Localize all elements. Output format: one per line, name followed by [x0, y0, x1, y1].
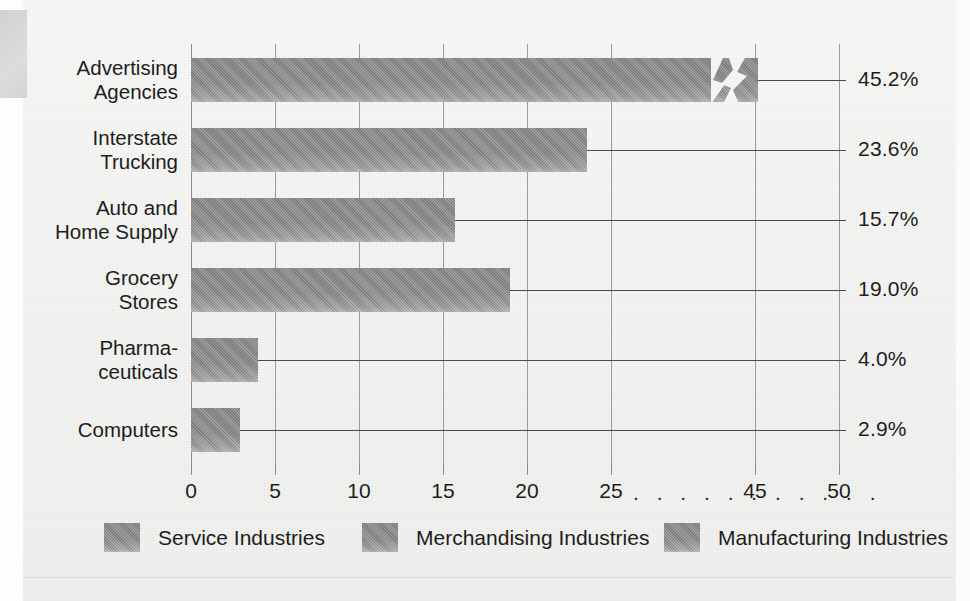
x-tick-label-0: 0 [161, 479, 221, 503]
legend-item-1[interactable]: Merchandising Industries [362, 523, 649, 552]
leader-line-4 [258, 360, 846, 361]
tick-mark-10 [359, 463, 360, 475]
category-label-line: Trucking [93, 150, 178, 174]
legend-label-1: Merchandising Industries [416, 526, 649, 550]
category-label-1: InterstateTrucking [93, 126, 178, 174]
bar-4 [191, 338, 258, 382]
bar-3 [191, 268, 510, 312]
axis-break-ellipsis: . . . . . . . . . . . [633, 481, 882, 505]
leader-line-2 [455, 220, 846, 221]
gridline-15 [443, 44, 444, 463]
bar-chart-plot-area: 05101520254550. . . . . . . . . . .45.2%… [0, 0, 970, 601]
category-label-line: Pharma- [98, 336, 178, 360]
x-tick-label-20: 20 [497, 479, 557, 503]
category-label-5: Computers [78, 418, 178, 442]
x-tick-label-25: 25 [581, 479, 641, 503]
x-tick-label-5: 5 [245, 479, 305, 503]
category-label-line: Stores [105, 290, 178, 314]
gridline-50 [839, 44, 840, 463]
category-label-line: Computers [78, 418, 178, 442]
category-label-line: Grocery [105, 266, 178, 290]
tick-mark-45 [755, 463, 756, 475]
category-label-4: Pharma-ceuticals [98, 336, 178, 384]
gridline-45 [755, 44, 756, 463]
gridline-25 [611, 44, 612, 463]
legend-label-0: Service Industries [158, 526, 325, 550]
category-label-3: GroceryStores [105, 266, 178, 314]
legend-swatch-icon [664, 523, 700, 552]
x-tick-label-10: 10 [329, 479, 389, 503]
tick-mark-50 [839, 463, 840, 475]
bar-5 [191, 408, 240, 452]
value-label-3: 19.0% [858, 277, 919, 301]
gridline-10 [359, 44, 360, 463]
leader-line-1 [587, 150, 846, 151]
gridline-5 [275, 44, 276, 463]
category-label-line: Home Supply [55, 220, 178, 244]
tick-mark-0 [191, 463, 192, 475]
axis-break-zigzag-icon [711, 58, 755, 104]
legend-item-2[interactable]: Manufacturing Industries [664, 523, 948, 552]
legend-swatch-icon [362, 523, 398, 552]
category-label-line: Agencies [77, 80, 178, 104]
category-label-line: Interstate [93, 126, 178, 150]
value-label-1: 23.6% [858, 137, 919, 161]
leader-line-5 [240, 430, 846, 431]
category-label-line: Auto and [55, 196, 178, 220]
gridline-0 [191, 44, 192, 463]
chart-legend: Service IndustriesMerchandising Industri… [0, 515, 970, 565]
legend-swatch-icon [104, 523, 140, 552]
gridline-20 [527, 44, 528, 463]
x-tick-label-15: 15 [413, 479, 473, 503]
legend-item-0[interactable]: Service Industries [104, 523, 325, 552]
category-label-line: Advertising [77, 56, 178, 80]
value-label-0: 45.2% [858, 67, 919, 91]
value-label-2: 15.7% [858, 207, 919, 231]
tick-mark-25 [611, 463, 612, 475]
category-label-line: ceuticals [98, 360, 178, 384]
leader-line-3 [510, 290, 846, 291]
value-label-5: 2.9% [858, 417, 907, 441]
legend-label-2: Manufacturing Industries [718, 526, 948, 550]
chart-page: 05101520254550. . . . . . . . . . .45.2%… [0, 0, 970, 601]
bar-0 [191, 58, 758, 102]
tick-mark-20 [527, 463, 528, 475]
bar-2 [191, 198, 455, 242]
category-label-2: Auto andHome Supply [55, 196, 178, 244]
tick-mark-15 [443, 463, 444, 475]
leader-line-0 [758, 80, 846, 81]
bar-1 [191, 128, 587, 172]
tick-mark-5 [275, 463, 276, 475]
value-label-4: 4.0% [858, 347, 907, 371]
category-label-0: AdvertisingAgencies [77, 56, 178, 104]
